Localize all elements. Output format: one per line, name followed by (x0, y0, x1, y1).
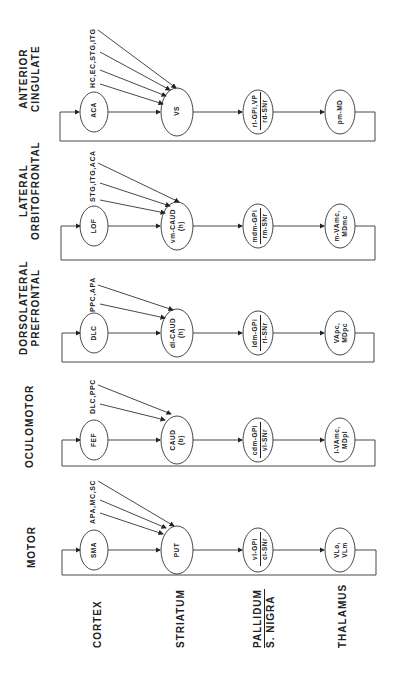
inputs-label: HC,EC,STG,ITG (89, 28, 96, 88)
inputs-label: APA,MC,SC (89, 480, 96, 524)
node-pallidum: ldm-GPi rl-SNr (251, 315, 269, 351)
striatum-line-2: (h) (177, 313, 185, 353)
striatum-line-1: dl-CAUD (169, 313, 177, 353)
node-striatum: vm-CAUD (h) (169, 206, 185, 246)
title-line-2: CINGULATE (30, 45, 42, 112)
thalamus-line-1: l-VAmc, (333, 422, 341, 458)
level-label-cortex: CORTEX (92, 600, 103, 648)
title-line-1: OCULOMOTOR (24, 385, 36, 468)
thalamus-line-1: VApc, (333, 319, 341, 347)
node-thalamus: VApc, MDpc (333, 319, 349, 347)
inputs-label: STG,ITG,ACA (89, 150, 96, 202)
node-cortex: FEF (90, 430, 98, 450)
pallidum-label: ldm-GPi (251, 315, 261, 351)
title-line-1: ANTERIOR (18, 45, 30, 112)
node-thalamus: l-VAmc, MDpl (333, 422, 349, 458)
striatum-line-2: (b) (177, 428, 185, 452)
node-cortex: DLC (90, 323, 98, 343)
circuit-title-motor: MOTOR (26, 526, 38, 568)
thalamus-line-2: MDpl (341, 422, 349, 458)
pallidum-label: vl-GPi (251, 532, 261, 566)
striatum-line-1: CAUD (169, 428, 177, 452)
circuit-title-dorsolateral-prefrontal: DORSOLATERAL PREFRONTAL (18, 260, 42, 355)
node-thalamus: VLo, VLm (333, 538, 349, 562)
striatum-line-1: vm-CAUD (169, 206, 177, 246)
circuit-title-oculomotor: OCULOMOTOR (24, 385, 36, 468)
circuit-oculomotor-lines (62, 385, 375, 466)
level-label-pallidum-nigra: PALLIDUM S. NIGRA (252, 589, 276, 648)
title-line-2: PREFRONTAL (30, 260, 42, 355)
title-line-1: DORSOLATERAL (18, 260, 30, 355)
node-cortex: ACA (90, 100, 98, 120)
nigra-label: rl-SNr (261, 315, 269, 351)
pallidum-label: cdm-GPi (251, 422, 261, 458)
thalamus-line-1: VLo, (333, 538, 341, 562)
title-line-1: MOTOR (26, 526, 38, 568)
thalamus-line-1: m-VAmc, (333, 208, 341, 244)
nigra-label: vl-SNr (261, 422, 269, 458)
title-line-1: LATERAL (18, 141, 30, 240)
level-label-striatum: STRIATUM (175, 589, 186, 648)
thalamus-line-2: MDpc (341, 319, 349, 347)
circuit-lateral-orbitofrontal-lines (61, 163, 375, 260)
level-label-thalamus: THALAMUS (337, 584, 348, 648)
node-thalamus: pm-MD (336, 98, 344, 126)
node-striatum: VS (173, 104, 181, 118)
circuit-dorsolateral-prefrontal-lines (62, 285, 374, 362)
inputs-label: PPC,APA (89, 277, 96, 312)
nigra-label: cl-SNr (261, 532, 269, 566)
node-striatum: dl-CAUD (h) (169, 313, 185, 353)
node-pallidum: mdm-GPi rm-SNr (251, 208, 269, 244)
node-striatum: PUT (173, 540, 181, 560)
nigra-label: rm-SNr (261, 208, 269, 244)
circuit-anterior-cingulate-lines (60, 30, 375, 141)
node-pallidum: cdm-GPi vl-SNr (251, 422, 269, 458)
thalamus-line-2: VLm (341, 538, 349, 562)
node-cortex: SMA (90, 540, 98, 560)
circuit-title-anterior-cingulate: ANTERIOR CINGULATE (18, 45, 42, 112)
title-line-2: ORBITOFRONTAL (30, 141, 42, 240)
node-striatum: CAUD (b) (169, 428, 185, 452)
pallidum-label: rl-GPi,VP (251, 92, 261, 130)
node-pallidum: rl-GPi,VP rd-SNr (251, 92, 269, 130)
pallidum-level-label: PALLIDUM (252, 589, 265, 648)
nigra-level-label: S. NIGRA (265, 589, 276, 648)
circuit-title-lateral-orbitofrontal: LATERAL ORBITOFRONTAL (18, 141, 42, 240)
inputs-label: DLC,PPC (89, 379, 96, 414)
thalamus-line-1: pm-MD (336, 98, 344, 126)
striatum-line-2: (h) (177, 206, 185, 246)
thalamus-line-2: MDmc (341, 208, 349, 244)
circuit-motor-lines (62, 481, 376, 575)
node-pallidum: vl-GPi cl-SNr (251, 532, 269, 566)
node-cortex: LOF (90, 216, 98, 236)
nigra-label: rd-SNr (261, 92, 269, 130)
pallidum-label: mdm-GPi (251, 208, 261, 244)
node-thalamus: m-VAmc, MDmc (333, 208, 349, 244)
